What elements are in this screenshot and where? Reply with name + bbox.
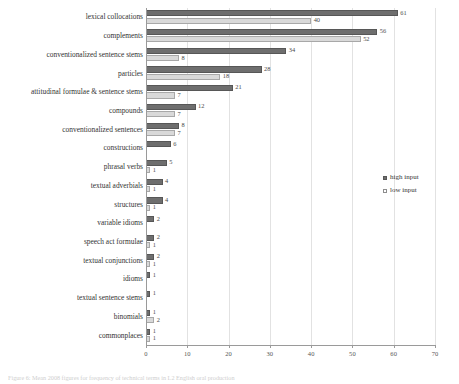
bar-value-label: 1 — [153, 309, 156, 315]
category-label: constructions — [0, 144, 146, 152]
chart-row: lexical collocations6140 — [0, 8, 459, 27]
bar-high-input — [146, 141, 171, 147]
bar-value-label: 5 — [169, 159, 172, 165]
bar-chart-plot: lexical collocations6140complements5652c… — [0, 0, 459, 360]
bar-value-label: 1 — [153, 290, 156, 296]
bar-low-input — [146, 92, 175, 98]
bar-pair: 348 — [146, 45, 459, 64]
chart-row: speech act formulae21 — [0, 233, 459, 252]
bar-value-label: 8 — [182, 122, 185, 128]
bar-low-input — [146, 74, 220, 80]
figure-container: lexical collocations6140complements5652c… — [0, 0, 459, 384]
bar-high-input — [146, 66, 262, 72]
bar-low-input — [146, 130, 175, 136]
legend-item-high-input: high input — [383, 172, 419, 183]
bar-value-label: 1 — [153, 328, 156, 334]
bar-low-input — [146, 317, 154, 323]
category-label: speech act formulae — [0, 238, 146, 246]
chart-row: conventionalized sentence stems348 — [0, 45, 459, 64]
bar-pair: 127 — [146, 102, 459, 121]
bar-value-label: 2 — [157, 253, 160, 259]
bar-pair: 6140 — [146, 8, 459, 27]
bar-low-input — [146, 36, 361, 42]
category-label: attitudinal formulae & sentence stems — [0, 88, 146, 96]
legend-item-low-input: low input — [383, 185, 419, 196]
category-label: lexical collocations — [0, 13, 146, 21]
bar-value-label: 1 — [153, 261, 156, 267]
bar-value-label: 56 — [380, 28, 386, 34]
bar-value-label: 34 — [289, 47, 295, 53]
bar-value-label: 4 — [165, 178, 168, 184]
bar-pair: 2818 — [146, 64, 459, 83]
chart-row: idioms1 — [0, 270, 459, 289]
bar-value-label: 7 — [177, 111, 180, 117]
category-label: conventionalized sentence stems — [0, 51, 146, 59]
bar-low-input — [146, 111, 175, 117]
chart-row: complements5652 — [0, 27, 459, 46]
bar-high-input — [146, 104, 196, 110]
legend-swatch-low-input-icon — [383, 189, 387, 193]
x-tick-label-20: 20 — [219, 350, 239, 357]
chart-row: attitudinal formulae & sentence stems217 — [0, 83, 459, 102]
bar-low-input — [146, 55, 179, 61]
bar-high-input — [146, 123, 179, 129]
chart-row: textual conjunctions21 — [0, 251, 459, 270]
legend-label-low-input: low input — [390, 185, 417, 196]
bar-pair: 6 — [146, 139, 459, 158]
legend-swatch-high-input-icon — [383, 176, 387, 180]
bar-value-label: 2 — [157, 234, 160, 240]
x-tick-label-40: 40 — [301, 350, 321, 357]
bar-pair: 12 — [146, 308, 459, 327]
legend-label-high-input: high input — [390, 172, 419, 183]
x-tick-label-50: 50 — [342, 350, 362, 357]
x-tick-label-70: 70 — [425, 350, 445, 357]
bar-value-label: 18 — [223, 73, 229, 79]
category-label: textual sentence stems — [0, 294, 146, 302]
category-label: idioms — [0, 275, 146, 283]
bar-value-label: 12 — [198, 103, 204, 109]
x-tick-label-10: 10 — [177, 350, 197, 357]
category-label: complements — [0, 32, 146, 40]
bar-value-label: 1 — [153, 186, 156, 192]
bar-value-label: 21 — [235, 84, 241, 90]
bar-high-input — [146, 160, 167, 166]
bar-value-label: 1 — [153, 335, 156, 341]
bar-value-label: 7 — [177, 92, 180, 98]
x-tick-10 — [187, 345, 188, 348]
bar-value-label: 40 — [314, 17, 320, 23]
bar-high-input — [146, 254, 154, 260]
bar-value-label: 7 — [177, 130, 180, 136]
category-label: phrasal verbs — [0, 163, 146, 171]
bar-value-label: 2 — [157, 317, 160, 323]
chart-row: particles2818 — [0, 64, 459, 83]
chart-row: textual sentence stems1 — [0, 289, 459, 308]
category-label: binomials — [0, 313, 146, 321]
chart-row: binomials12 — [0, 308, 459, 327]
x-axis-baseline — [146, 345, 436, 346]
bar-pair: 2 — [146, 214, 459, 233]
x-tick-20 — [229, 345, 230, 348]
bar-high-input — [146, 216, 154, 222]
x-tick-label-60: 60 — [384, 350, 404, 357]
bar-value-label: 8 — [182, 55, 185, 61]
chart-row: conventionalized sentences87 — [0, 120, 459, 139]
bar-high-input — [146, 29, 377, 35]
bar-low-input — [146, 18, 311, 24]
bar-high-input — [146, 48, 286, 54]
bar-value-label: 4 — [165, 197, 168, 203]
x-tick-50 — [352, 345, 353, 348]
chart-row: compounds127 — [0, 102, 459, 121]
bar-value-label: 1 — [153, 204, 156, 210]
category-label: structures — [0, 201, 146, 209]
chart-legend: high input low input — [383, 172, 419, 198]
chart-row: variable idioms2 — [0, 214, 459, 233]
x-tick-40 — [311, 345, 312, 348]
bar-value-label: 6 — [173, 141, 176, 147]
bar-pair: 11 — [146, 326, 459, 345]
category-label: compounds — [0, 107, 146, 115]
category-label: commonplaces — [0, 332, 146, 340]
bar-high-input — [146, 179, 163, 185]
bar-pair: 217 — [146, 83, 459, 102]
x-tick-70 — [435, 345, 436, 348]
y-axis-line — [146, 8, 147, 345]
